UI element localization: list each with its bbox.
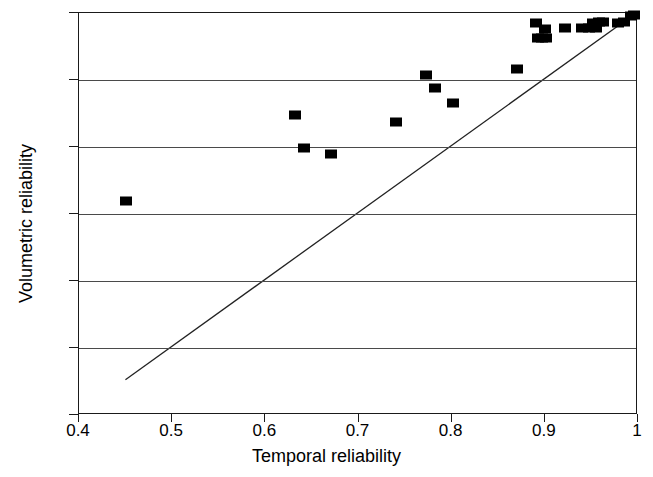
x-tick-label: 0.9 [532, 421, 556, 441]
x-tick-label: 0.4 [66, 421, 90, 441]
y-tick [69, 146, 78, 147]
axis-decorations: 0.40.50.60.70.80.910.40.50.60.70.80.91 [0, 0, 653, 477]
x-tick-label: 0.5 [159, 421, 183, 441]
y-tick [69, 12, 78, 13]
x-tick-label: 1 [632, 421, 641, 441]
x-tick-label: 0.8 [439, 421, 463, 441]
x-tick-label: 0.6 [253, 421, 277, 441]
y-tick [69, 213, 78, 214]
y-axis-title: Volumetric reliability [16, 94, 37, 354]
x-axis-title: Temporal reliability [0, 446, 653, 467]
y-tick [69, 79, 78, 80]
x-tick-label: 0.7 [346, 421, 370, 441]
y-tick [69, 347, 78, 348]
y-tick [69, 414, 78, 415]
y-tick [69, 280, 78, 281]
scatter-chart-figure: 0.40.50.60.70.80.910.40.50.60.70.80.91 T… [0, 0, 653, 477]
